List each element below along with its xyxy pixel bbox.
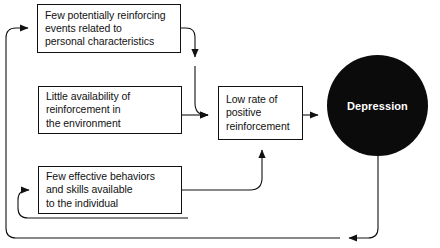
node-text-line: Few effective behaviors xyxy=(46,170,177,183)
node-text-line: and skills available xyxy=(46,183,177,196)
connector-box3-to-box4 xyxy=(182,150,262,190)
node-text-line: Few potentially reinforcing xyxy=(45,9,176,22)
diagram-canvas: Few potentially reinforcing events relat… xyxy=(0,0,440,248)
node-text-line: personal characteristics xyxy=(45,35,176,48)
node-little-availability-reinforcement: Little availability of reinforcement in … xyxy=(38,86,182,134)
node-few-effective-behaviors: Few effective behaviors and skills avail… xyxy=(38,166,182,214)
node-text-line: Little availability of xyxy=(46,90,177,103)
node-text-line: to the individual xyxy=(46,197,177,210)
node-text-line: the environment xyxy=(46,117,177,130)
node-low-rate-positive-reinforcement: Low rate of positive reinforcement xyxy=(218,86,303,140)
connector-box1-to-box4 xyxy=(195,66,208,115)
node-text-line: Low rate of xyxy=(226,93,298,106)
depression-label: Depression xyxy=(347,100,408,112)
node-depression: Depression xyxy=(327,55,428,156)
node-text-line: events related to xyxy=(45,22,176,35)
connector-box1-down-stub xyxy=(181,28,195,57)
connector-depression-down-bottom xyxy=(349,150,378,238)
node-text-line: reinforcement xyxy=(226,120,298,133)
node-text-line: positive xyxy=(226,106,298,119)
node-few-reinforcing-events: Few potentially reinforcing events relat… xyxy=(37,4,181,53)
node-text-line: reinforcement in xyxy=(46,103,177,116)
